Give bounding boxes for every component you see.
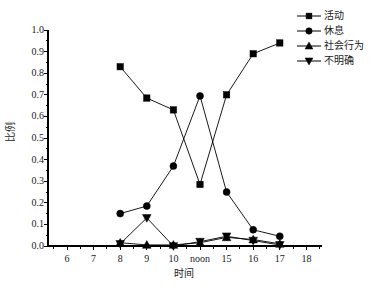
y-tick-label: 0.8 (12, 68, 44, 78)
axis-lines (48, 30, 322, 246)
series-line (120, 43, 280, 184)
legend-item-1[interactable]: 休息 (296, 24, 364, 37)
circle-icon (296, 25, 322, 37)
data-point (144, 95, 150, 101)
legend-item-3[interactable]: 不明确 (296, 54, 364, 67)
square-icon (296, 10, 322, 22)
series-1 (117, 92, 284, 239)
data-point (170, 163, 177, 170)
data-point (170, 107, 176, 113)
legend-item-label: 不明确 (322, 55, 354, 67)
y-tick-label: 0.1 (12, 219, 44, 229)
y-tick-label: 0.2 (12, 198, 44, 208)
legend-item-label: 休息 (322, 25, 344, 37)
data-point (143, 203, 150, 210)
series-3 (116, 215, 284, 251)
data-point (197, 92, 204, 99)
y-tick-label: 0.4 (12, 155, 44, 165)
series-0 (117, 40, 283, 188)
y-tick-label: 1.0 (12, 25, 44, 35)
data-point (250, 51, 256, 57)
data-point (117, 210, 124, 217)
triangle-down-icon (296, 55, 322, 67)
legend-item-label: 活动 (322, 10, 344, 22)
x-axis-title: 时间 (48, 268, 320, 279)
data-point (117, 64, 123, 70)
chart-figure: 比例 时间 0.00.10.20.30.40.50.60.70.80.91.0 … (0, 0, 385, 289)
data-point (197, 181, 203, 187)
data-point (223, 92, 229, 98)
triangle-up-icon (296, 40, 322, 52)
data-point (250, 226, 257, 233)
x-tick-label: 18 (286, 254, 326, 264)
y-tick-label: 0.6 (12, 111, 44, 121)
data-point (277, 40, 283, 46)
y-tick-label: 0.5 (12, 133, 44, 143)
chart-legend: 活动休息社会行为不明确 (296, 9, 364, 67)
legend-item-label: 社会行为 (322, 40, 364, 52)
y-tick-label: 0.7 (12, 90, 44, 100)
data-point (276, 233, 283, 240)
y-tick-label: 0.0 (12, 241, 44, 251)
y-tick-label: 0.9 (12, 47, 44, 57)
legend-item-0[interactable]: 活动 (296, 9, 364, 22)
legend-item-2[interactable]: 社会行为 (296, 39, 364, 52)
y-tick-label: 0.3 (12, 176, 44, 186)
axis-ticks (44, 30, 320, 250)
data-point (223, 189, 230, 196)
